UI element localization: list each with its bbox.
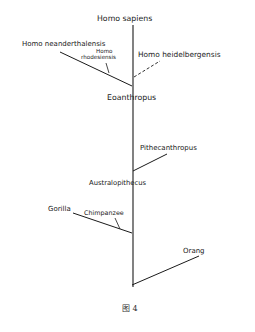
label-eoanthropus: Eoanthropus <box>107 94 156 102</box>
label-homo-neanderthalensis: Homo neanderthalensis <box>22 41 105 48</box>
label-chimpanzee: Chimpanzee <box>84 210 124 216</box>
heidelbergensis-branch <box>134 61 160 77</box>
label-homo-rhodesiensis-line2: rhodesiensis <box>81 55 116 61</box>
pithecanthropus-branch <box>133 154 167 171</box>
label-pithecanthropus: Pithecanthropus <box>140 145 197 152</box>
orang-branch <box>132 256 199 285</box>
label-australopithecus: Australopithecus <box>89 180 146 187</box>
rhodesiensis-tick <box>106 63 109 73</box>
label-orang: Orang <box>183 248 205 255</box>
label-homo-heidelbergensis: Homo heidelbergensis <box>138 51 221 58</box>
figure-caption: 图 4 <box>122 302 138 313</box>
label-gorilla: Gorilla <box>48 206 71 213</box>
label-homo-sapiens: Homo sapiens <box>97 15 152 23</box>
